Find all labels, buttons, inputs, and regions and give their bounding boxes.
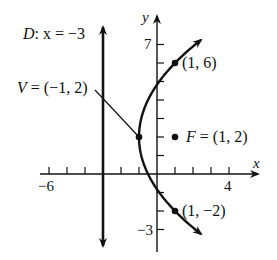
directrix-name: D	[22, 25, 35, 42]
latus-upper-point	[172, 60, 179, 67]
focus-label: F = (1, 2)	[185, 128, 247, 146]
vertex-point	[136, 134, 143, 141]
y-tick-label-neg3: −3	[137, 222, 153, 238]
y-tick-label-7: 7	[144, 36, 152, 52]
vertex-leader-line	[95, 90, 139, 137]
x-tick-label-4: 4	[224, 178, 232, 194]
x-axis-label: x	[252, 155, 260, 171]
y-axis-ticks	[157, 45, 164, 230]
directrix-equation: : x = −3	[35, 25, 86, 42]
focus-coords: = (1, 2)	[196, 128, 248, 146]
y-axis-label: y	[140, 9, 149, 25]
y-axis: y 7 −3	[137, 9, 164, 252]
latus-upper-label: (1, 6)	[182, 54, 217, 72]
directrix-label: D: x = −3	[22, 25, 85, 42]
focus-name: F	[185, 128, 196, 145]
parabola-figure: x −6 4 y 7 −3 D: x = −3	[0, 0, 277, 260]
x-axis-ticks	[49, 167, 229, 174]
latus-lower-point	[172, 208, 179, 215]
vertex-label: V = (−1, 2)	[17, 79, 87, 97]
focus-point	[172, 134, 179, 141]
vertex-coords: = (−1, 2)	[27, 79, 88, 97]
latus-lower-label: (1, −2)	[182, 202, 226, 220]
x-tick-label-neg6: −6	[38, 178, 54, 194]
